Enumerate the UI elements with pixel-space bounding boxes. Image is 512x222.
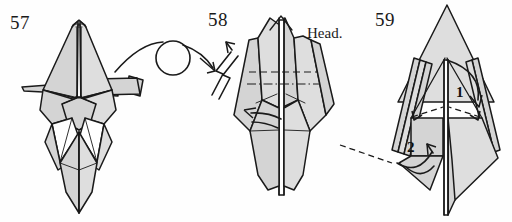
figure-58-left-inner-panel [258, 18, 281, 108]
figure-57-upper-right-panel [80, 21, 112, 98]
figure-59-illustration [340, 5, 500, 215]
figure-59-dashed-crease-right [449, 107, 480, 117]
diagram-canvas: .pf { fill:#d4d4d4; stroke:#1a1a1a; stro… [0, 0, 512, 222]
fold-order-label-1: 1 [456, 84, 464, 101]
fold-order-label-2: 2 [407, 139, 415, 156]
turn-over-arrow [115, 41, 215, 75]
figure-57-upper-left-panel [43, 21, 78, 98]
turn-over-circle-icon [156, 41, 190, 75]
head-label: Head. [307, 25, 342, 42]
figure-58-illustration [234, 16, 334, 195]
origami-diagram-page: .pf { fill:#d4d4d4; stroke:#1a1a1a; stro… [0, 0, 512, 222]
step-number-57: 57 [10, 12, 30, 34]
step-number-59: 59 [375, 9, 395, 31]
step-number-58: 58 [208, 9, 228, 31]
hidden-edge-line-59 [340, 145, 392, 163]
pleat-arrow-zigzag-shaft [212, 52, 231, 95]
pleat-zigzag-arrow [212, 42, 238, 99]
figure-57-illustration [22, 20, 143, 213]
